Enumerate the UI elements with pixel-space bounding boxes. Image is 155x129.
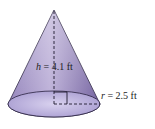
height-label: h = 4.1 ft	[36, 61, 73, 72]
radius-label: r = 2.5 ft	[101, 90, 137, 101]
cone-diagram: h = 4.1 ft r = 2.5 ft	[0, 0, 155, 129]
